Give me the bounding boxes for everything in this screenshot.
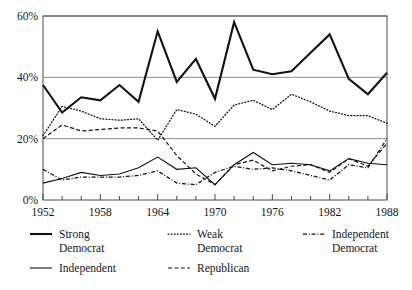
- y-tick-label-40: 40%: [17, 71, 39, 83]
- legend-label-weak-democrat: Weak: [197, 228, 223, 240]
- series-line-strong-democrat: [43, 22, 387, 112]
- x-tick-label-1988: 1988: [376, 206, 399, 218]
- legend-label-strong-democrat-line2: Democrat: [59, 242, 105, 254]
- chart-legend: StrongDemocratWeakDemocratIndependentDem…: [30, 228, 390, 275]
- y-tick-label-60: 60%: [17, 10, 39, 22]
- legend-entry-independent[interactable]: Independent: [30, 262, 117, 275]
- legend-label-independent: Independent: [59, 262, 117, 275]
- x-axis-tick-marks: [43, 194, 387, 200]
- party-identification-line-chart: 0%20%40%60% 1952195819641970197619821988…: [0, 0, 412, 290]
- legend-label-weak-democrat-line2: Democrat: [197, 242, 243, 254]
- data-series-group: [43, 22, 387, 185]
- x-tick-label-1982: 1982: [318, 206, 341, 218]
- x-tick-label-1970: 1970: [204, 206, 227, 218]
- gridlines: [43, 16, 387, 139]
- x-axis-tick-labels: 1952195819641970197619821988: [32, 206, 399, 218]
- series-line-independent-democrat: [43, 139, 387, 185]
- x-tick-label-1964: 1964: [146, 206, 169, 218]
- x-tick-label-1976: 1976: [261, 206, 284, 218]
- legend-label-independent-democrat: Independent: [332, 228, 390, 241]
- x-tick-label-1952: 1952: [32, 206, 55, 218]
- x-tick-label-1958: 1958: [89, 206, 112, 218]
- y-tick-label-0: 0%: [23, 194, 39, 206]
- legend-label-republican: Republican: [197, 262, 250, 275]
- y-tick-label-20: 20%: [17, 133, 39, 145]
- legend-entry-independent-democrat[interactable]: IndependentDemocrat: [303, 228, 390, 254]
- legend-label-strong-democrat: Strong: [59, 228, 90, 241]
- legend-entry-weak-democrat[interactable]: WeakDemocrat: [168, 228, 243, 254]
- chart-figure: 0%20%40%60% 1952195819641970197619821988…: [0, 0, 412, 290]
- y-axis-tick-labels: 0%20%40%60%: [17, 10, 39, 206]
- legend-entry-republican[interactable]: Republican: [168, 262, 250, 275]
- legend-entry-strong-democrat[interactable]: StrongDemocrat: [30, 228, 105, 254]
- legend-label-independent-democrat-line2: Democrat: [332, 242, 378, 254]
